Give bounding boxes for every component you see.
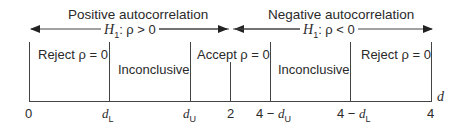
region-accept: Accept ρ = 0: [197, 47, 270, 62]
tick-4-minus-dU: 4 − dU: [256, 106, 291, 124]
region-inconclusive-upper: Inconclusive: [278, 62, 350, 77]
region-inconclusive-lower: Inconclusive: [118, 62, 190, 77]
tick-dU: dU: [183, 106, 196, 124]
axis-label-d: d: [437, 89, 444, 105]
tick-2: 2: [227, 106, 234, 121]
tick-dL: dL: [102, 106, 114, 124]
negative-hypothesis-label: H1: ρ < 0: [300, 22, 358, 40]
tick-0: 0: [25, 106, 32, 121]
region-reject-negative: Reject ρ = 0: [361, 47, 431, 62]
region-reject-positive: Reject ρ = 0: [38, 47, 108, 62]
tick-4-minus-dL: 4 − dL: [337, 106, 371, 124]
tick-4: 4: [427, 106, 434, 121]
positive-hypothesis-label: H1: ρ > 0: [101, 22, 159, 40]
positive-autocorrelation-header: Positive autocorrelation: [68, 7, 208, 22]
negative-autocorrelation-header: Negative autocorrelation: [268, 7, 414, 22]
